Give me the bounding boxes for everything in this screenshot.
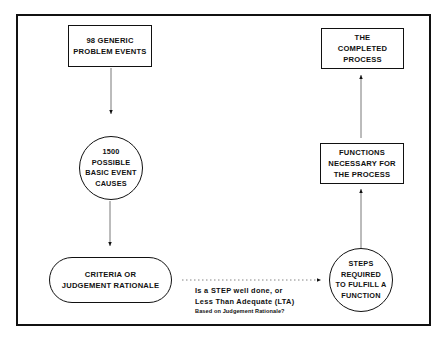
node-label-line: PROBLEM EVENTS — [73, 46, 146, 57]
edge-label-line-2: Less Than Adequate (LTA) — [195, 296, 294, 307]
node-functions-necessary: FUNCTIONS NECESSARY FOR THE PROCESS — [320, 143, 404, 184]
node-generic-problem-events: 98 GENERIC PROBLEM EVENTS — [68, 25, 152, 67]
node-completed-process: THE COMPLETED PROCESS — [321, 28, 404, 69]
edge-label-line-3: Based on Judgement Rationale? — [195, 307, 294, 316]
node-label-line: JUDGEMENT RATIONALE — [62, 280, 159, 291]
node-label-line: NECESSARY FOR — [328, 158, 396, 169]
node-label-line: 98 GENERIC — [73, 35, 146, 46]
node-label-line: THE PROCESS — [328, 169, 396, 180]
node-label-line: COMPLETED — [338, 43, 387, 54]
node-label-line: CAUSES — [85, 179, 136, 190]
node-label-line: 1500 — [85, 147, 136, 158]
node-label-line: THE — [338, 32, 387, 43]
node-label-line: BASIC EVENT — [85, 168, 136, 179]
node-label-line: CRITERIA OR — [62, 269, 159, 280]
node-criteria-judgement-rationale: CRITERIA OR JUDGEMENT RATIONALE — [49, 257, 172, 303]
node-label-line: STEPS — [336, 259, 387, 270]
node-label-line: POSSIBLE — [85, 158, 136, 169]
node-label-line: REQUIRED — [336, 270, 387, 281]
node-basic-event-causes: 1500 POSSIBLE BASIC EVENT CAUSES — [79, 136, 143, 200]
node-label-line: FUNCTION — [336, 291, 387, 302]
edge-label-line-1: Is a STEP well done, or — [195, 285, 294, 296]
node-steps-required: STEPS REQUIRED TO FULFILL A FUNCTION — [329, 248, 393, 312]
node-label-line: PROCESS — [338, 54, 387, 65]
edge-label-lta-question: Is a STEP well done, or Less Than Adequa… — [195, 285, 294, 316]
node-label-line: TO FULFILL A — [336, 280, 387, 291]
node-label-line: FUNCTIONS — [328, 147, 396, 158]
